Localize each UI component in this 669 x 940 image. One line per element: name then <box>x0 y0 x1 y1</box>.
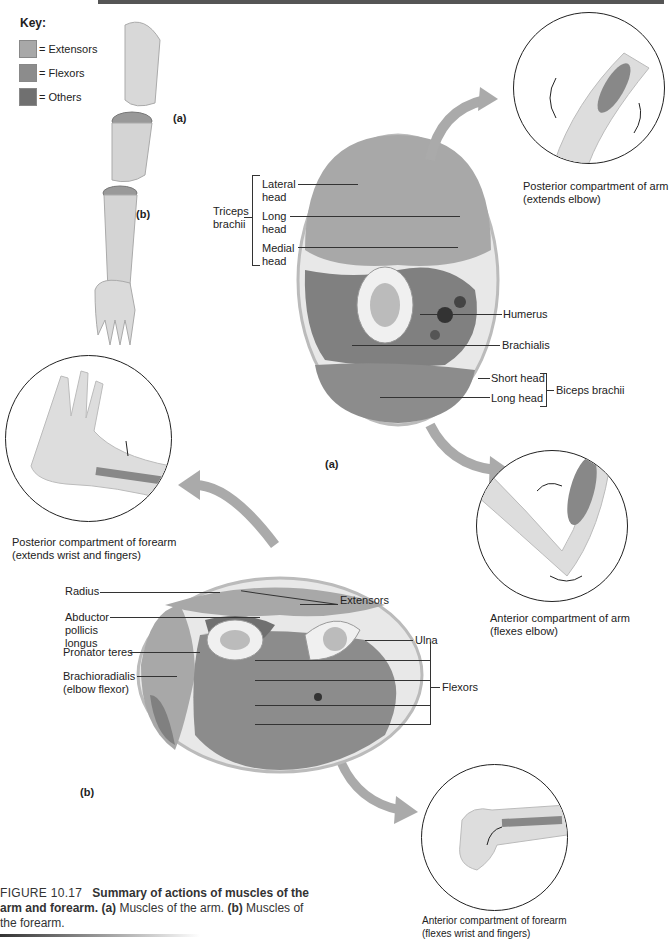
arrow-to-posterior-arm <box>420 85 500 165</box>
radius-label: Radius <box>65 585 99 598</box>
key-others-label: = Others <box>39 91 82 103</box>
long-head-label: Longhead <box>262 210 286 236</box>
flexors-bracket <box>430 642 431 725</box>
caption-b-text: Muscles of <box>243 901 304 915</box>
leader-line <box>300 604 338 605</box>
anterior-arm-caption: Anterior compartment of arm(flexes elbow… <box>490 612 630 638</box>
leader-line <box>352 345 500 346</box>
others-swatch <box>19 88 37 106</box>
bottom-rule <box>0 934 200 937</box>
bracket-tick <box>540 406 547 407</box>
figure-caption: FIGURE 10.17 Summary of actions of muscl… <box>0 886 410 931</box>
key-flexors: = Flexors <box>19 64 85 82</box>
caption-tail: the forearm. <box>0 916 65 930</box>
extensors-swatch <box>19 40 37 58</box>
ulna-label: Ulna <box>415 634 438 647</box>
leader-line <box>298 184 358 185</box>
inset-anterior-arm <box>476 450 628 602</box>
arm-illustration <box>90 15 190 350</box>
top-rule <box>98 0 664 4</box>
leader-line <box>130 652 200 653</box>
bracket-tick <box>540 373 547 374</box>
caption-title: Summary of actions of muscles of the <box>92 886 309 900</box>
leader-line <box>255 724 430 725</box>
short-head-label: Short head <box>491 372 545 385</box>
medial-head-label: Medialhead <box>262 242 294 268</box>
section-a-label: (a) <box>325 458 338 471</box>
brachioradialis-label: Brachioradialis(elbow flexor) <box>63 670 135 696</box>
inset-posterior-arm <box>513 12 665 164</box>
leader-line <box>137 676 177 677</box>
caption-b-label: (b) <box>227 901 242 915</box>
inset-anterior-forearm <box>421 764 568 911</box>
leader-line <box>365 640 413 641</box>
bracket-tick <box>252 265 260 266</box>
arm-cross-section <box>295 130 505 430</box>
bracket-tick <box>252 175 260 176</box>
key-extensors-label: = Extensors <box>39 43 97 55</box>
leader-line <box>478 378 490 379</box>
key-extensors: = Extensors <box>19 40 97 58</box>
leader-line <box>255 680 430 681</box>
humerus-label: Humerus <box>503 308 548 321</box>
posterior-forearm-caption: Posterior compartment of forearm(extends… <box>12 536 176 562</box>
flexors-swatch <box>19 64 37 82</box>
triceps-bracket <box>252 175 253 265</box>
lateral-head-label: Lateralhead <box>262 178 296 204</box>
key-flexors-label: = Flexors <box>39 67 85 79</box>
leader-line <box>255 660 430 661</box>
brachialis-label: Brachialis <box>502 339 550 352</box>
anterior-forearm-caption: Anterior compartment of forearm(flexes w… <box>422 914 567 940</box>
triceps-label: Tricepsbrachii <box>213 205 249 231</box>
arm-label-a: (a) <box>173 112 186 125</box>
inset-posterior-forearm <box>5 355 172 522</box>
bracket-tick <box>430 687 440 688</box>
arm-label-b: (b) <box>136 208 150 221</box>
abductor-pollicis-longus-label: Abductorpollicislongus <box>65 611 109 650</box>
posterior-arm-caption: Posterior compartment of arm(extends elb… <box>523 180 669 206</box>
pronator-teres-label: Pronator teres <box>63 646 133 659</box>
leader-line <box>255 705 430 706</box>
caption-title-2: arm and forearm. <box>0 901 98 915</box>
key-title: Key: <box>20 16 46 30</box>
long-head-biceps-label: Long head <box>491 392 543 405</box>
caption-a-text: Muscles of the arm. <box>116 901 227 915</box>
key-others: = Others <box>19 88 82 106</box>
leader-line <box>380 397 490 398</box>
arrow-to-posterior-forearm <box>170 460 280 550</box>
bracket-tick <box>546 390 554 391</box>
leader-line <box>110 617 260 618</box>
leader-line <box>290 216 460 217</box>
leader-line <box>100 592 220 593</box>
figure-number: FIGURE 10.17 <box>0 886 82 900</box>
extensors-label: Extensors <box>340 594 389 607</box>
leader-line <box>420 314 502 315</box>
flexors-label: Flexors <box>442 681 478 694</box>
biceps-brachii-label: Biceps brachii <box>556 384 624 397</box>
caption-a-label: (a) <box>101 901 116 915</box>
leader-line <box>298 247 458 248</box>
section-b-label: (b) <box>80 786 94 799</box>
